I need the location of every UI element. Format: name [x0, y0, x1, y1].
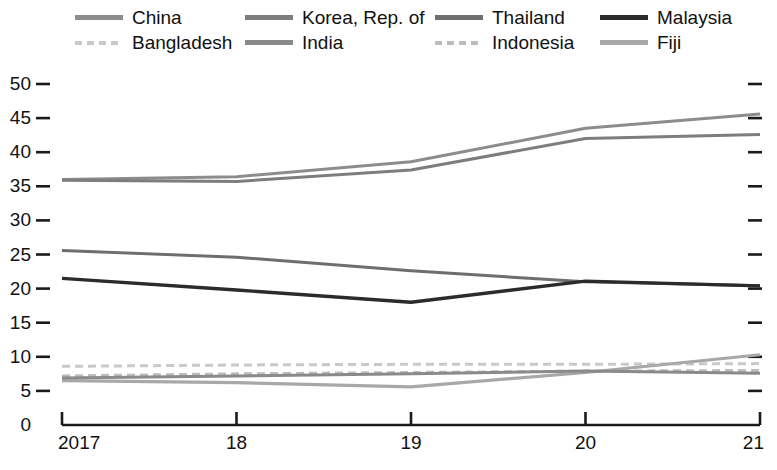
legend-label: India: [302, 33, 343, 52]
plot-area: 05101520253035404550201718192021: [0, 58, 777, 470]
legend-swatch-icon: [600, 40, 648, 45]
y-axis-tick-label: 5: [0, 381, 31, 400]
y-axis-tick-label: 0: [0, 415, 31, 434]
x-axis-tick-label: 20: [573, 433, 599, 452]
legend-label: Bangladesh: [132, 33, 232, 52]
legend-item-bangladesh[interactable]: Bangladesh: [75, 33, 232, 52]
x-axis-tick-label: 19: [398, 433, 424, 452]
x-axis-tick-label: 21: [738, 433, 764, 452]
legend-swatch-icon: [75, 15, 123, 20]
legend-item-indonesia[interactable]: Indonesia: [435, 33, 574, 52]
y-axis-tick-label: 40: [0, 142, 31, 161]
legend-swatch-icon: [75, 41, 123, 45]
y-axis-tick-label: 10: [0, 347, 31, 366]
series-line-korea-rep-of: [62, 134, 760, 181]
legend-label: China: [132, 8, 182, 27]
y-axis-tick-label: 50: [0, 74, 31, 93]
legend-item-china[interactable]: China: [75, 8, 182, 27]
legend-item-malaysia[interactable]: Malaysia: [600, 8, 732, 27]
legend-item-india[interactable]: India: [245, 33, 343, 52]
legend-swatch-icon: [435, 15, 483, 20]
legend-label: Thailand: [492, 8, 565, 27]
legend-item-fiji[interactable]: Fiji: [600, 33, 681, 52]
legend-swatch-icon: [600, 15, 648, 20]
y-axis-tick-label: 20: [0, 279, 31, 298]
y-axis-tick-label: 35: [0, 176, 31, 195]
plot-svg: [0, 58, 777, 470]
x-axis-tick-label: 18: [224, 433, 250, 452]
chart-legend: ChinaKorea, Rep. ofThailandMalaysiaBangl…: [0, 0, 777, 58]
legend-label: Korea, Rep. of: [302, 8, 425, 27]
y-axis-tick-label: 15: [0, 313, 31, 332]
legend-label: Fiji: [657, 33, 681, 52]
legend-swatch-icon: [245, 40, 293, 45]
legend-label: Indonesia: [492, 33, 574, 52]
y-axis-tick-label: 45: [0, 108, 31, 127]
y-axis-tick-label: 30: [0, 210, 31, 229]
legend-swatch-icon: [245, 15, 293, 20]
y-axis-tick-label: 25: [0, 245, 31, 264]
series-line-thailand: [62, 250, 760, 285]
legend-item-thailand[interactable]: Thailand: [435, 8, 565, 27]
line-chart: ChinaKorea, Rep. ofThailandMalaysiaBangl…: [0, 0, 777, 470]
legend-item-korea-rep-of[interactable]: Korea, Rep. of: [245, 8, 425, 27]
legend-swatch-icon: [435, 41, 483, 45]
x-axis-tick-label: 2017: [58, 433, 100, 452]
legend-label: Malaysia: [657, 8, 732, 27]
series-line-malaysia: [62, 278, 760, 302]
